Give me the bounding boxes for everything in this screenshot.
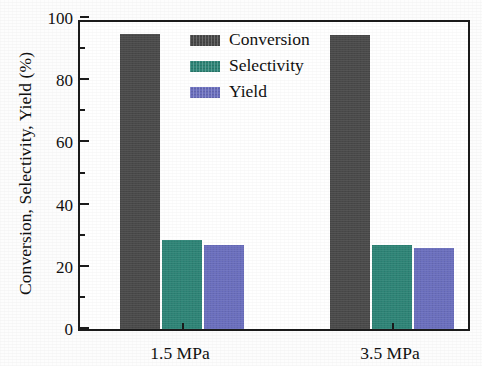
y-tick-major-20: 20 (80, 265, 89, 267)
legend-swatch-icon (190, 61, 220, 72)
y-tick-label-80: 80 (56, 72, 73, 89)
legend-item-yield: Yield (190, 82, 310, 102)
bar-grain-texture (414, 248, 454, 329)
bar-grain-texture (372, 245, 412, 329)
bar-grain-texture (162, 240, 202, 329)
legend-item-selectivity: Selectivity (190, 56, 310, 76)
y-tick-label-20: 20 (56, 258, 73, 275)
y-tick-label-100: 100 (48, 10, 74, 27)
bar-conversion-1-5-mpa (120, 34, 160, 329)
x-tick-1 (392, 323, 394, 329)
legend-swatch-texture (190, 61, 220, 72)
x-axis-label-1: 3.5 MPa (360, 343, 419, 364)
bar-grain-texture (120, 34, 160, 329)
y-tick-major-40: 40 (80, 203, 89, 205)
y-tick-minor-30 (80, 234, 85, 236)
y-tick-major-80: 80 (80, 78, 89, 80)
y-tick-minor-10 (80, 296, 85, 298)
legend-label: Selectivity (229, 57, 304, 75)
y-tick-label-40: 40 (56, 196, 73, 213)
figure-canvas: Conversion, Selectivity, Yield (%) 02040… (0, 0, 482, 366)
y-tick-major-60: 60 (80, 140, 89, 142)
legend-label: Yield (229, 83, 267, 101)
y-tick-minor-90 (80, 47, 85, 49)
legend-swatch-texture (190, 87, 220, 98)
legend-swatch-icon (190, 35, 220, 46)
y-tick-label-0: 0 (65, 321, 74, 338)
bar-grain-texture (330, 35, 370, 329)
legend-swatch-icon (190, 87, 220, 98)
y-tick-minor-50 (80, 172, 85, 174)
y-tick-major-100: 100 (80, 16, 89, 18)
x-axis-label-0: 1.5 MPa (150, 343, 209, 364)
bar-grain-texture (204, 245, 244, 329)
bar-selectivity-3-5-mpa (372, 245, 412, 329)
legend-item-conversion: Conversion (190, 30, 310, 50)
y-axis-title: Conversion, Selectivity, Yield (%) (15, 9, 36, 339)
bar-yield-3-5-mpa (414, 248, 454, 329)
bar-selectivity-1-5-mpa (162, 240, 202, 329)
plot-area: 020406080100 ConversionSelectivityYield (78, 20, 470, 331)
bar-yield-1-5-mpa (204, 245, 244, 329)
y-tick-major-0: 0 (80, 327, 89, 329)
legend-swatch-texture (190, 35, 220, 46)
y-tick-label-60: 60 (56, 134, 73, 151)
x-tick-0 (182, 323, 184, 329)
bar-conversion-3-5-mpa (330, 35, 370, 329)
legend-label: Conversion (229, 31, 310, 49)
chart-legend: ConversionSelectivityYield (190, 30, 310, 102)
y-tick-minor-70 (80, 109, 85, 111)
